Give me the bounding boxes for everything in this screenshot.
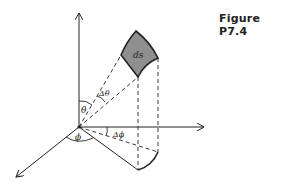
label-delta-phi: Δϕ xyxy=(112,130,125,139)
delta-phi-arc xyxy=(106,127,107,136)
origin-point xyxy=(77,125,80,128)
label-phi: ϕ xyxy=(75,132,81,142)
label-theta: θ xyxy=(81,105,87,115)
spherical-surface-element-diagram: ds θ Δθ ϕ Δϕ xyxy=(0,0,290,191)
projected-arc xyxy=(138,152,158,170)
label-delta-theta: Δθ xyxy=(98,89,110,98)
x-axis xyxy=(16,127,79,177)
label-ds: ds xyxy=(133,50,144,60)
ray-plane-solid xyxy=(79,127,138,170)
